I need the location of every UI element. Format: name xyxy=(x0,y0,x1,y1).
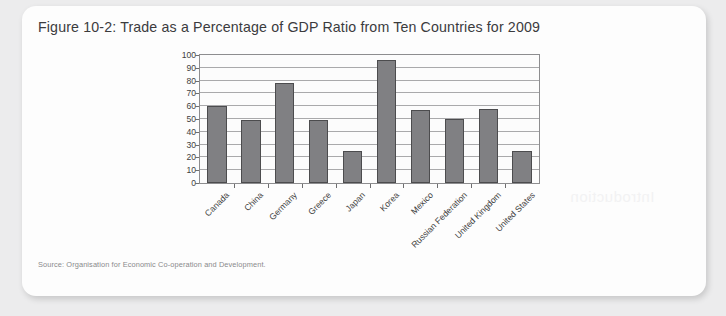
bar[interactable] xyxy=(377,60,396,183)
x-axis-tick-label: Japan xyxy=(343,190,367,214)
bar-slot xyxy=(437,55,471,183)
x-axis-tick-mark xyxy=(268,184,269,188)
y-axis-tick-mark xyxy=(195,183,199,184)
x-axis-tick-label: Korea xyxy=(378,190,401,213)
y-axis-tick-label: 100 xyxy=(156,50,196,60)
bar[interactable] xyxy=(479,109,498,183)
x-axis-tick-mark xyxy=(336,184,337,188)
bar[interactable] xyxy=(207,106,226,183)
y-axis-tick-mark xyxy=(195,55,199,56)
bar[interactable] xyxy=(411,110,430,183)
bar-slot xyxy=(234,55,268,183)
y-axis-tick-mark xyxy=(195,93,199,94)
x-axis-tick-label: Mexico xyxy=(409,190,435,216)
x-axis-tick-label: Canada xyxy=(203,190,231,218)
bar[interactable] xyxy=(241,120,260,183)
bar[interactable] xyxy=(445,119,464,183)
bar[interactable] xyxy=(309,120,328,183)
source-note: Source: Organisation for Economic Co-ope… xyxy=(38,260,266,269)
y-axis-tick-mark xyxy=(195,68,199,69)
x-axis-tick-mark xyxy=(471,184,472,188)
y-axis-tick-label: 80 xyxy=(156,76,196,86)
y-axis-tick-label: 30 xyxy=(156,140,196,150)
bar-series xyxy=(200,55,539,183)
page-bleed-artifact: Introduction xyxy=(570,188,654,205)
bar-slot xyxy=(370,55,404,183)
bar-chart: 0102030405060708090100 CanadaChinaGerman… xyxy=(152,50,548,196)
bar-slot xyxy=(268,55,302,183)
bar[interactable] xyxy=(343,151,362,183)
y-axis-tick-mark xyxy=(195,157,199,158)
y-axis-tick-mark xyxy=(195,106,199,107)
x-axis-tick-mark xyxy=(370,184,371,188)
bar[interactable] xyxy=(275,83,294,183)
y-axis-tick-label: 60 xyxy=(156,101,196,111)
bar[interactable] xyxy=(512,151,531,183)
x-axis-tick-label: China xyxy=(242,190,265,213)
bar-slot xyxy=(200,55,234,183)
x-axis-tick-label: Germany xyxy=(267,190,299,222)
bar-slot xyxy=(336,55,370,183)
y-axis-tick-label: 90 xyxy=(156,63,196,73)
x-axis-tick-label: Greece xyxy=(306,190,333,217)
x-axis-tick-mark xyxy=(505,184,506,188)
figure-card: Introduction Figure 10-2: Trade as a Per… xyxy=(22,6,706,296)
x-axis-tick-mark xyxy=(403,184,404,188)
y-axis-tick-mark xyxy=(195,170,199,171)
figure-title: Figure 10-2: Trade as a Percentage of GD… xyxy=(38,19,540,35)
x-axis-tick-mark xyxy=(437,184,438,188)
y-axis-tick-mark xyxy=(195,145,199,146)
bar-slot xyxy=(505,55,539,183)
y-axis-tick-label: 50 xyxy=(156,114,196,124)
bar-slot xyxy=(403,55,437,183)
bar-slot xyxy=(302,55,336,183)
y-axis-tick-label: 70 xyxy=(156,88,196,98)
x-axis-tick-mark xyxy=(302,184,303,188)
y-axis-tick-mark xyxy=(195,119,199,120)
y-axis-tick-label: 40 xyxy=(156,127,196,137)
bar-slot xyxy=(471,55,505,183)
y-axis-tick-mark xyxy=(195,81,199,82)
y-axis-tick-label: 10 xyxy=(156,165,196,175)
x-axis-tick-mark xyxy=(234,184,235,188)
y-axis-tick-label: 20 xyxy=(156,152,196,162)
y-axis-tick-mark xyxy=(195,132,199,133)
y-axis-tick-label: 0 xyxy=(156,178,196,188)
